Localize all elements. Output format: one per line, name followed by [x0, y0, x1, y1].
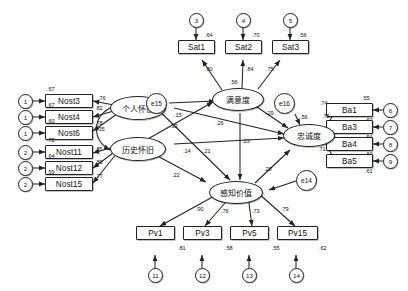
latent-satisfaction: 满意度 [212, 88, 264, 111]
path-label-pn-value: .14 [183, 148, 190, 154]
r2-label: .64 [47, 153, 54, 159]
path-label-value-satisfaction: .26 [216, 120, 223, 126]
r2-label: .81 [178, 245, 185, 251]
path-label-hn-value: .22 [172, 172, 179, 178]
r2-label: .62 [319, 245, 326, 251]
error-circle: 11 [148, 268, 163, 283]
r2-label: .58 [225, 245, 232, 251]
error-circle: 2 [18, 177, 33, 192]
latent-perceived-value: 感知价值 [209, 181, 263, 204]
error-circle: 7 [383, 120, 398, 135]
sem-path-diagram: 1 Nost3 .57 .76 1 Nost4 .67 .82 1 Nost6 … [0, 0, 408, 291]
loading-label: .80 [205, 66, 212, 72]
error-circle: 13 [242, 268, 257, 283]
error-circle: 14 [289, 268, 304, 283]
r2-label: .60 [47, 118, 54, 124]
loading-label: .77 [95, 173, 102, 179]
error-circle: 3 [189, 13, 204, 28]
r2-label: .70 [252, 32, 259, 38]
error-circle: 2 [18, 161, 33, 176]
error-value: .61 [365, 168, 372, 174]
path-label-hn-loyalty: .23 [242, 138, 249, 144]
loading-label: .85 [95, 146, 102, 152]
indicator-box-ba5: Ba5 [326, 154, 373, 168]
loading-label: .80 [95, 159, 102, 165]
loading-label: .79 [281, 206, 288, 212]
r2-label: .56 [299, 32, 306, 38]
disturbance-value: .56 [300, 114, 307, 120]
path-label-satisfaction-loyalty: .29 [266, 110, 273, 116]
loading-label: .84 [246, 66, 253, 72]
path-label-pn-loyalty: .21 [203, 148, 210, 154]
loading-label: .71 [318, 146, 325, 152]
error-circle: 12 [195, 268, 210, 283]
disturbance-circle-e14: e14 [296, 170, 317, 191]
loading-label: .74 [320, 100, 327, 106]
error-circle: 1 [18, 126, 33, 141]
r2-label: .59 [47, 169, 54, 175]
indicator-box-pv15: Pv15 [277, 226, 318, 240]
satisfaction-r2-label: .56 [230, 79, 237, 85]
path-label-correlation: .35 [97, 126, 104, 132]
indicator-box-sat1: Sat1 [178, 40, 215, 54]
loading-label: .73 [252, 208, 259, 214]
r2-label: .72 [47, 137, 54, 143]
loading-label: .76 [221, 208, 228, 214]
error-circle: 5 [283, 13, 298, 28]
r2-label: .55 [362, 95, 369, 101]
indicator-box-pv1: Pv1 [136, 226, 175, 240]
error-circle: 4 [236, 13, 251, 28]
indicator-box-sat3: Sat3 [272, 40, 309, 54]
r2-label: .67 [47, 102, 54, 108]
latent-loyalty: 忠诚度 [283, 124, 335, 147]
indicator-box-pv3: Pv3 [183, 226, 222, 240]
indicator-box-pv5: Pv5 [230, 226, 269, 240]
error-circle: 9 [383, 154, 398, 169]
loading-label: .82 [95, 105, 102, 111]
indicator-box-sat2: Sat2 [225, 40, 262, 54]
loading-label: .76 [98, 95, 105, 101]
error-circle: 8 [383, 137, 398, 152]
indicator-box-nost15: Nost15 [45, 177, 93, 191]
error-circle: 2 [18, 145, 33, 160]
path-label-pn-satisfaction: .33 [170, 123, 177, 129]
path-label-value-loyalty: .28 [264, 166, 271, 172]
disturbance-circle-e16: e16 [274, 93, 295, 114]
indicator-box-ba1: Ba1 [326, 103, 373, 117]
r2-label: .55 [272, 245, 279, 251]
r2-label: .64 [205, 32, 212, 38]
error-circle: 1 [18, 94, 33, 109]
loading-label: .75 [322, 113, 329, 119]
loading-label: .75 [266, 66, 273, 72]
r2-label: .57 [47, 86, 54, 92]
disturbance-value: .15 [174, 112, 181, 118]
disturbance-circle-e15: e15 [146, 93, 167, 114]
error-circle: 6 [383, 103, 398, 118]
loading-label: .90 [196, 206, 203, 212]
error-circle: 1 [18, 110, 33, 125]
latent-historical-nostalgia: 历史怀旧 [110, 137, 166, 161]
